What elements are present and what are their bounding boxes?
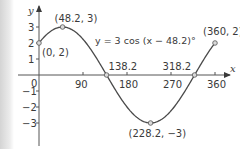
y-tick-label: −3 [22, 118, 37, 129]
equation-label: y = 3 cos (x − 48.2)° [95, 35, 196, 46]
key-point-label: (228.2, −3) [129, 128, 187, 139]
cosine-graph: 90180270360321−1−2−3 x y 0 y = 3 cos (x … [0, 0, 240, 149]
x-axis-label: x [230, 63, 236, 74]
y-tick-label: 2 [28, 38, 34, 49]
key-point-label: (360, 2) [203, 26, 240, 37]
key-point-marker [60, 25, 65, 30]
x-tick-label: 180 [119, 79, 138, 90]
y-tick-label: 3 [28, 22, 34, 33]
key-point-marker [148, 121, 153, 126]
y-tick-label: 1 [28, 54, 34, 65]
x-tick-label: 270 [163, 79, 182, 90]
origin-label: 0 [31, 78, 37, 89]
key-points: (0, 2)(48.2, 3)138.2(228.2, −3)318.2(360… [37, 13, 240, 139]
x-tick-label: 90 [75, 79, 88, 90]
x-tick-label: 360 [207, 79, 226, 90]
key-point-label: 138.2 [109, 61, 138, 72]
key-point-label: (0, 2) [42, 47, 69, 58]
key-point-label: (48.2, 3) [55, 13, 98, 24]
key-point-label: 318.2 [163, 61, 192, 72]
key-point-marker [213, 41, 218, 46]
y-tick-label: −2 [22, 102, 37, 113]
key-point-marker [104, 73, 109, 78]
key-point-marker [37, 41, 42, 46]
y-axis-label: y [27, 5, 34, 16]
key-point-marker [192, 73, 197, 78]
